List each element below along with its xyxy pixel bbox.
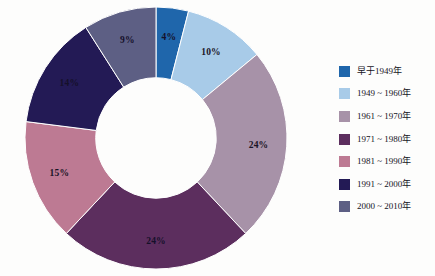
legend-item[interactable]: 早于1949年: [339, 60, 435, 83]
chart-page: 4%10%24%24%15%14%9% 早于1949年1949 ~ 1960年1…: [0, 0, 435, 276]
donut-slice-group: [25, 7, 287, 269]
legend-item[interactable]: 1981 ~ 1990年: [339, 150, 435, 173]
legend-item-label: 1971 ~ 1980年: [357, 135, 411, 144]
legend-item[interactable]: 1991 ~ 2000年: [339, 173, 435, 196]
legend-swatch-icon: [339, 88, 350, 99]
donut-chart-svg: 4%10%24%24%15%14%9%: [8, 4, 304, 272]
legend-item[interactable]: 1961 ~ 1970年: [339, 105, 435, 128]
donut-slice-label: 9%: [120, 35, 135, 45]
legend-item-label: 早于1949年: [357, 67, 402, 76]
legend-item[interactable]: 1949 ~ 1960年: [339, 83, 435, 106]
donut-slice-label: 10%: [201, 47, 221, 57]
legend-item-label: 2000 ~ 2010年: [357, 202, 411, 211]
legend-swatch-icon: [339, 179, 350, 190]
legend-swatch-icon: [339, 111, 350, 122]
legend-item[interactable]: 1971 ~ 1980年: [339, 128, 435, 151]
legend-item-label: 1981 ~ 1990年: [357, 157, 411, 166]
legend-item-label: 1991 ~ 2000年: [357, 180, 411, 189]
donut-slice-label: 4%: [162, 32, 177, 42]
legend-swatch-icon: [339, 134, 350, 145]
donut-chart: 4%10%24%24%15%14%9%: [0, 0, 310, 276]
chart-legend: 早于1949年1949 ~ 1960年1961 ~ 1970年1971 ~ 19…: [339, 60, 435, 218]
legend-item-label: 1949 ~ 1960年: [357, 89, 411, 98]
legend-swatch-icon: [339, 156, 350, 167]
donut-slice-label: 14%: [59, 78, 79, 88]
legend-item[interactable]: 2000 ~ 2010年: [339, 196, 435, 219]
legend-swatch-icon: [339, 201, 350, 212]
donut-slice-label: 15%: [50, 168, 70, 178]
donut-slice-label: 24%: [249, 140, 269, 150]
donut-slice-label: 24%: [146, 236, 166, 246]
legend-item-label: 1961 ~ 1970年: [357, 112, 411, 121]
legend-swatch-icon: [339, 66, 350, 77]
